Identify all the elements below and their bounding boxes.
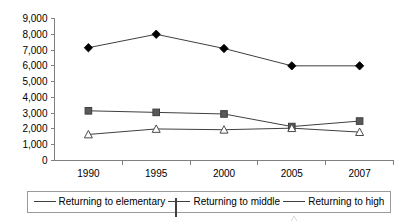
- chart-legend: Returning to elementaryReturning to midd…: [27, 191, 391, 213]
- line-chart: 01,0002,0003,0004,0005,0006,0007,0008,00…: [0, 0, 408, 221]
- data-point-marker: [85, 108, 92, 115]
- data-point-marker: [355, 62, 363, 70]
- y-axis-tick-label: 1,000: [22, 139, 47, 150]
- chart-plot-area: 01,0002,0003,0004,0005,0006,0007,0008,00…: [0, 0, 408, 188]
- legend-marker-triangle-icon: [283, 197, 305, 207]
- x-axis-tick-label: 1995: [145, 168, 168, 179]
- legend-marker-square-icon: [168, 197, 190, 207]
- x-axis-tick-label: 1990: [77, 168, 100, 179]
- legend-item[interactable]: Returning to middle: [168, 197, 280, 207]
- y-axis-tick-label: 0: [42, 155, 48, 166]
- y-axis-tick-label: 3,000: [22, 108, 47, 119]
- x-axis-tick-label: 2000: [213, 168, 236, 179]
- data-point-marker: [356, 118, 363, 125]
- data-point-marker: [288, 62, 296, 70]
- legend-item-label: Returning to middle: [193, 197, 280, 207]
- x-axis-tick-label: 2005: [281, 168, 304, 179]
- legend-item-label: Returning to high: [308, 197, 384, 207]
- series-layer: [84, 30, 364, 138]
- y-axis-tick-label: 2,000: [22, 123, 47, 134]
- data-point-marker: [221, 111, 228, 118]
- data-point-marker: [152, 30, 160, 38]
- data-point-marker: [153, 109, 160, 116]
- legend-item[interactable]: Returning to high: [283, 197, 384, 207]
- y-axis-tick-label: 5,000: [22, 76, 47, 87]
- chart-series: [84, 30, 364, 70]
- legend-item-label: Returning to elementary: [59, 197, 166, 207]
- y-axis: 01,0002,0003,0004,0005,0006,0007,0008,00…: [22, 13, 54, 166]
- y-axis-tick-label: 7,000: [22, 45, 47, 56]
- legend-item[interactable]: Returning to elementary: [34, 197, 166, 207]
- x-axis: 19901995200020052007: [55, 161, 394, 179]
- data-point-marker: [84, 43, 92, 51]
- data-point-marker: [220, 44, 228, 52]
- y-axis-tick-label: 6,000: [22, 60, 47, 71]
- chart-series: [84, 124, 363, 138]
- y-axis-tick-label: 8,000: [22, 29, 47, 40]
- x-axis-tick-label: 2007: [348, 168, 371, 179]
- y-axis-tick-label: 4,000: [22, 92, 47, 103]
- legend-marker-diamond-icon: [34, 197, 56, 207]
- y-axis-tick-label: 9,000: [22, 13, 47, 24]
